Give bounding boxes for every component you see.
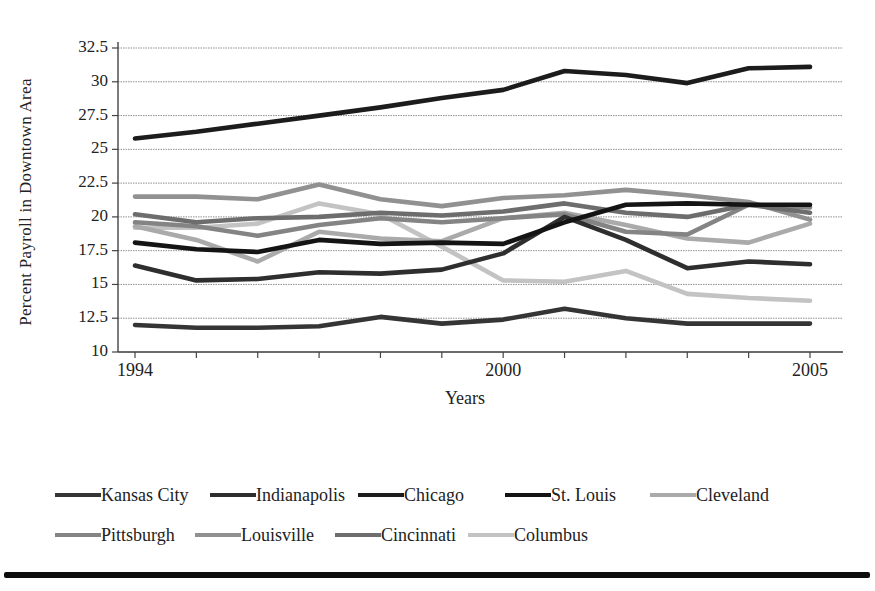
legend-item-kansas-city: Kansas City	[55, 484, 189, 506]
legend-swatch	[468, 533, 514, 537]
x-axis-title: Years	[330, 388, 600, 409]
legend-label: Cleveland	[696, 485, 769, 506]
legend-item-chicago: Chicago	[358, 484, 464, 506]
legend-swatch	[210, 493, 256, 497]
y-tick-label: 15	[46, 273, 108, 293]
y-tick-label: 22.5	[46, 172, 108, 192]
x-tick-label: 2005	[775, 360, 845, 381]
legend-label: Louisville	[241, 525, 314, 546]
legend-swatch	[358, 493, 404, 497]
y-axis-title: Percent Payroll in Downtown Area	[16, 52, 36, 352]
y-tick-label: 10	[46, 341, 108, 361]
legend-item-cleveland: Cleveland	[650, 484, 769, 506]
y-tick-label: 12.5	[46, 307, 108, 327]
bottom-rule	[4, 572, 870, 578]
legend-label: Indianapolis	[256, 485, 345, 506]
y-tick-label: 25	[46, 138, 108, 158]
y-tick-label: 30	[46, 71, 108, 91]
legend-label: Chicago	[404, 485, 464, 506]
line-chart-plot	[0, 0, 875, 420]
legend-item-pittsburgh: Pittsburgh	[55, 524, 175, 546]
legend-item-cincinnati: Cincinnati	[335, 524, 456, 546]
legend-swatch	[55, 533, 101, 537]
y-tick-label: 17.5	[46, 240, 108, 260]
legend-swatch	[505, 493, 551, 497]
legend-item-columbus: Columbus	[468, 524, 588, 546]
x-tick-label: 2000	[468, 360, 538, 381]
legend-swatch	[650, 493, 696, 497]
legend-label: Kansas City	[101, 485, 189, 506]
legend-item-st-louis: St. Louis	[505, 484, 616, 506]
y-tick-label: 32.5	[46, 37, 108, 57]
legend-swatch	[335, 533, 381, 537]
series-line-chicago	[135, 67, 810, 139]
legend-item-indianapolis: Indianapolis	[210, 484, 345, 506]
legend-label: Columbus	[514, 525, 588, 546]
legend-label: St. Louis	[551, 485, 616, 506]
legend-item-louisville: Louisville	[195, 524, 314, 546]
legend-label: Cincinnati	[381, 525, 456, 546]
legend-swatch	[55, 493, 101, 497]
y-tick-label: 27.5	[46, 105, 108, 125]
chart-figure: Percent Payroll in Downtown Area Years 1…	[0, 0, 875, 591]
legend-swatch	[195, 533, 241, 537]
x-tick-label: 1994	[100, 360, 170, 381]
y-tick-label: 20	[46, 206, 108, 226]
legend-label: Pittsburgh	[101, 525, 175, 546]
